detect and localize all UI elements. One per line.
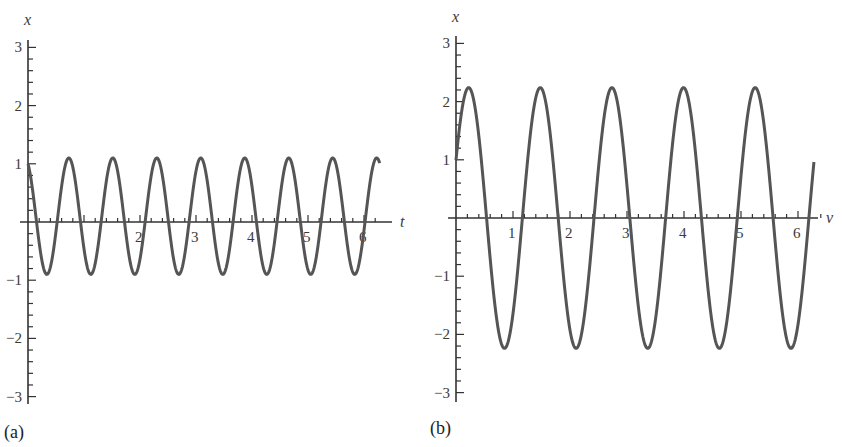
figure: 23456321−1−2−3tx(a) 123456321−1−2−3vx(b) (0, 0, 843, 447)
panel-label: (a) (4, 422, 24, 443)
y-tick-label: −3 (434, 385, 450, 401)
y-axis-label: x (451, 8, 459, 25)
x-axis-label: t (400, 213, 405, 230)
y-axis-label: x (23, 11, 31, 28)
panel-label: (b) (430, 418, 451, 439)
x-tick-label: 3 (191, 229, 199, 245)
chart-panel-b: 123456321−1−2−3vx(b) (430, 8, 834, 439)
y-tick-label: −1 (6, 272, 22, 288)
y-tick-label: −2 (434, 326, 450, 342)
y-tick-label: −3 (6, 389, 22, 405)
y-tick-label: 2 (15, 98, 23, 114)
data-curve (28, 158, 380, 274)
x-tick-label: 4 (679, 225, 687, 241)
x-tick-label: 4 (247, 229, 255, 245)
y-tick-label: −1 (434, 268, 450, 284)
y-tick-label: 3 (15, 39, 23, 55)
x-tick-label: 3 (622, 225, 630, 241)
x-tick-label: 1 (508, 225, 516, 241)
y-tick-label: 3 (443, 35, 451, 51)
y-tick-label: −2 (6, 330, 22, 346)
chart-panel-a: 23456321−1−2−3tx(a) (4, 11, 405, 443)
x-axis-label: v (826, 209, 834, 226)
x-tick-label: 2 (565, 225, 573, 241)
x-tick-label: 6 (793, 225, 801, 241)
y-tick-label: 2 (443, 94, 451, 110)
y-tick-label: 1 (443, 152, 451, 168)
y-tick-label: 1 (15, 156, 23, 172)
